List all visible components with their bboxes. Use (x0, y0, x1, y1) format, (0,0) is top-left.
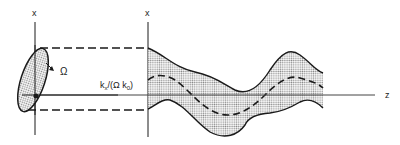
z-axis-label: z (385, 90, 390, 100)
right-x-axis-label: x (145, 8, 150, 18)
diagram-canvas: x x z Ω kx/(Ω k0) (0, 0, 400, 145)
origin-point (34, 94, 39, 99)
ray-label-close: ) (130, 80, 133, 90)
left-x-axis-label: x (32, 8, 37, 18)
beam-envelope (148, 48, 323, 136)
ray-label: kx/(Ω k0) (100, 80, 133, 91)
omega-label: Ω (60, 66, 68, 77)
initial-ellipse (11, 45, 54, 115)
ray-label-mid: /(Ω k (108, 80, 128, 90)
